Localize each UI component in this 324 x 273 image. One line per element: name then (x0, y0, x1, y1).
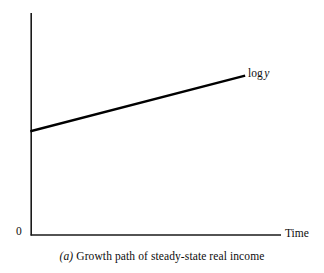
figure-caption: (a) Growth path of steady-state real inc… (0, 250, 324, 262)
caption-body: Growth path of steady-state real income (73, 250, 264, 262)
x-axis-label: Time (285, 228, 309, 240)
figure-container: 0 Time logy (a) Growth path of steady-st… (0, 0, 324, 273)
series-label-variable: y (263, 67, 270, 79)
origin-label: 0 (16, 226, 22, 238)
series-label-prefix: log (248, 67, 263, 79)
plot-area (0, 0, 324, 273)
series-label: logy (248, 68, 269, 80)
caption-index: (a) (60, 250, 74, 262)
plot-background (0, 0, 324, 273)
